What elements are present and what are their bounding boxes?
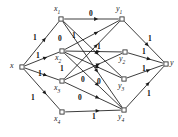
- edge-label-x2-y4: 0: [97, 78, 101, 86]
- node-label-sub-y2: 2: [123, 59, 126, 65]
- graph-edge-x2-y3: [65, 52, 121, 77]
- node-label-y: y: [170, 59, 174, 67]
- node-label-sub-x3: 3: [58, 88, 61, 94]
- graph-edge-x3-y4: [65, 82, 121, 108]
- edge-label-x4-y4: 1: [92, 113, 96, 121]
- edge-label-x3-y2: 1: [60, 65, 64, 73]
- graph-node-x4[interactable]: [60, 110, 64, 114]
- node-label-x4: x4: [54, 115, 60, 125]
- node-label-sub-x1: 1: [58, 9, 61, 15]
- edge-arrowhead-y3-y: [146, 69, 150, 73]
- graph-node-x[interactable]: [20, 65, 24, 69]
- node-label-y4: y4: [118, 113, 124, 123]
- graph-edge-x2-y4: [64, 53, 121, 108]
- edge-label-y4-y: 1: [147, 90, 151, 98]
- graph-node-y2[interactable]: [123, 50, 127, 54]
- node-label-base-y: y: [170, 58, 174, 67]
- edge-label-x3-y1: 1: [72, 32, 76, 40]
- node-label-x3: x3: [54, 84, 60, 94]
- node-label-y3: y3: [118, 82, 124, 92]
- edge-label-x2-y1: 0: [58, 35, 62, 43]
- edge-label-y2-y: 1: [142, 48, 146, 56]
- graph-node-y3[interactable]: [122, 77, 126, 81]
- graph-edge-x-x2: [25, 52, 59, 66]
- edge-arrowhead-x-x3: [43, 73, 47, 77]
- node-label-x: x: [10, 62, 14, 70]
- graph-canvas: [0, 0, 178, 137]
- graph-figure: xx1x2x3x4y1y2y3y4y 11110010011011111: [0, 0, 178, 137]
- edge-label-x2-y2: 1: [97, 43, 101, 51]
- graph-node-y4[interactable]: [122, 108, 126, 112]
- edge-label-x-x4: 1: [31, 94, 35, 102]
- node-label-x1: x1: [54, 5, 60, 15]
- edge-label-x-x3: 1: [38, 70, 42, 78]
- graph-edge-x-x3: [25, 68, 59, 80]
- edge-label-x-x1: 1: [33, 34, 37, 42]
- node-label-x2: x2: [55, 54, 61, 64]
- edge-label-x2-y3: 0: [81, 76, 85, 84]
- node-label-sub-y3: 3: [122, 86, 125, 92]
- graph-node-x2[interactable]: [60, 49, 64, 53]
- edge-label-x1-y1: 0: [89, 10, 93, 18]
- graph-node-x1[interactable]: [59, 17, 63, 21]
- edge-arrowhead-x4-y4: [96, 109, 100, 113]
- node-label-sub-y4: 4: [122, 117, 125, 123]
- node-label-sub-x2: 2: [59, 58, 62, 64]
- node-label-y2: y2: [119, 55, 125, 65]
- graph-node-y[interactable]: [164, 62, 168, 66]
- node-label-sub-y1: 1: [120, 9, 123, 15]
- node-label-y1: y1: [116, 5, 122, 15]
- edge-label-x-x2: 1: [36, 52, 40, 60]
- edge-label-y3-y: 1: [142, 65, 146, 73]
- edge-arrowhead-x1-y4: [94, 68, 98, 72]
- node-label-sub-x4: 4: [58, 119, 61, 125]
- graph-node-y1[interactable]: [120, 17, 124, 21]
- edge-arrowhead-x1-y1: [94, 17, 98, 21]
- node-label-base-x: x: [10, 61, 14, 70]
- edge-label-x3-y4: 0: [78, 94, 82, 102]
- graph-edge-x3-y2: [65, 53, 122, 79]
- graph-edge-x2-y2: [65, 51, 122, 52]
- edge-label-y1-y: 1: [148, 35, 152, 43]
- graph-node-x3[interactable]: [60, 79, 64, 83]
- graph-edge-x-x1: [24, 21, 59, 64]
